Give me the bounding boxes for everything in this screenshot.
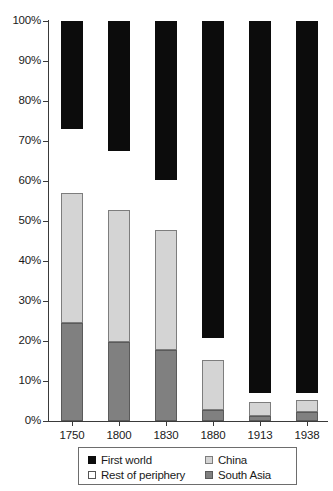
bar-segment-first-world-1938 <box>296 21 318 393</box>
bar-segment-china-1750 <box>61 193 83 323</box>
bar-segment-south-asia-1913 <box>249 416 271 421</box>
y-axis-label-40: 40% <box>0 255 41 267</box>
bar-segment-china-1880 <box>202 360 224 410</box>
stacked-bar-chart: 100%90%80%70%60%50%40%30%20%10%0% 175018… <box>0 0 333 491</box>
legend-item-south-asia: South Asia <box>205 469 271 481</box>
bar-1830 <box>155 21 177 421</box>
x-tick-mark <box>119 422 120 426</box>
bar-segment-rest-of-periphery-1913 <box>249 393 271 402</box>
x-tick-mark <box>260 422 261 426</box>
bar-segment-china-1938 <box>296 400 318 412</box>
bar-segment-south-asia-1750 <box>61 323 83 421</box>
x-axis-label-1750: 1750 <box>49 429 95 442</box>
y-axis-label-90: 90% <box>0 55 41 67</box>
bar-1913 <box>249 21 271 421</box>
x-axis-label-1830: 1830 <box>143 429 189 442</box>
bar-segment-south-asia-1938 <box>296 412 318 421</box>
bar-1800 <box>108 21 130 421</box>
x-tick-mark <box>213 422 214 426</box>
bar-segment-rest-of-periphery-1800 <box>108 151 130 210</box>
bar-segment-first-world-1830 <box>155 21 177 180</box>
legend-swatch-first-world-icon <box>88 456 96 464</box>
y-axis-label-10: 10% <box>0 375 41 387</box>
legend-label: Rest of periphery <box>101 469 185 481</box>
x-axis-line <box>48 421 328 422</box>
legend-label: China <box>218 454 247 466</box>
bar-segment-rest-of-periphery-1938 <box>296 393 318 400</box>
bar-segment-south-asia-1880 <box>202 410 224 421</box>
x-tick-mark <box>72 422 73 426</box>
y-axis-label-80: 80% <box>0 95 41 107</box>
x-axis-label-1800: 1800 <box>96 429 142 442</box>
legend-item-rest-periphery: Rest of periphery <box>88 469 185 481</box>
bar-segment-china-1913 <box>249 402 271 416</box>
bar-1750 <box>61 21 83 421</box>
bar-segment-china-1800 <box>108 210 130 342</box>
legend-swatch-china-icon <box>205 456 213 464</box>
legend-label: South Asia <box>218 469 271 481</box>
x-axis-label-1938: 1938 <box>284 429 330 442</box>
bar-segment-first-world-1913 <box>249 21 271 393</box>
plot-area <box>48 21 333 421</box>
y-axis-label-50: 50% <box>0 215 41 227</box>
bar-1880 <box>202 21 224 421</box>
y-axis-label-100: 100% <box>0 15 41 27</box>
y-axis-label-0: 0% <box>0 415 41 427</box>
legend-swatch-rest-periphery-icon <box>88 471 96 479</box>
x-tick-mark <box>307 422 308 426</box>
y-tick-mark <box>43 421 48 422</box>
legend-label: First world <box>101 454 152 466</box>
y-axis-label-20: 20% <box>0 335 41 347</box>
x-axis-label-1913: 1913 <box>237 429 283 442</box>
bar-segment-first-world-1880 <box>202 21 224 338</box>
bar-segment-rest-of-periphery-1880 <box>202 338 224 360</box>
bar-1938 <box>296 21 318 421</box>
legend-item-china: China <box>205 454 247 466</box>
bar-segment-china-1830 <box>155 230 177 350</box>
chart-legend: First worldRest of peripheryChinaSouth A… <box>78 447 297 485</box>
y-axis-label-30: 30% <box>0 295 41 307</box>
y-axis-label-60: 60% <box>0 175 41 187</box>
bar-segment-first-world-1750 <box>61 21 83 129</box>
legend-swatch-south-asia-icon <box>205 471 213 479</box>
bar-segment-rest-of-periphery-1750 <box>61 129 83 193</box>
bar-segment-south-asia-1800 <box>108 342 130 421</box>
bar-segment-first-world-1800 <box>108 21 130 151</box>
x-axis-label-1880: 1880 <box>190 429 236 442</box>
legend-item-first-world: First world <box>88 454 152 466</box>
bar-segment-south-asia-1830 <box>155 350 177 421</box>
y-axis-tick-labels: 100%90%80%70%60%50%40%30%20%10%0% <box>0 0 41 491</box>
x-tick-mark <box>166 422 167 426</box>
bar-segment-rest-of-periphery-1830 <box>155 180 177 230</box>
y-axis-label-70: 70% <box>0 135 41 147</box>
